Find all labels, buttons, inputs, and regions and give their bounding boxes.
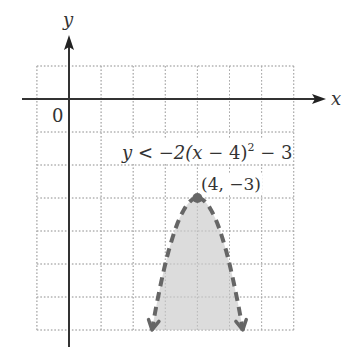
vertex-label: (4, −3) [201,174,261,194]
origin-label: 0 [52,105,63,126]
grid-overlay [37,66,294,330]
inequality-graph: x y 0 y < −2(x − 4)2 − 3 (4, −3) [0,0,362,356]
vertex-point [192,193,202,203]
inequality-label: y < −2(x − 4)2 − 3 [121,141,292,163]
y-axis-label: y [62,9,74,30]
x-axis-label: x [331,88,341,109]
